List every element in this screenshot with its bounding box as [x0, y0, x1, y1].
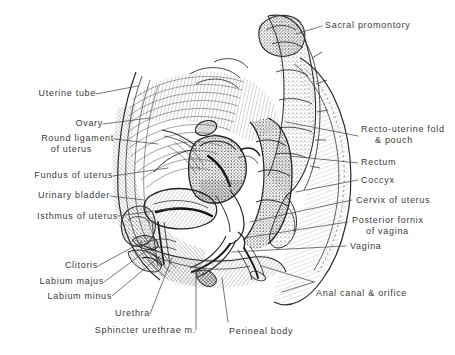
label-sphincter-urethrae: Sphincter urethrae m.: [0, 325, 196, 336]
label-fundus-of-uterus: Fundus of uterus: [0, 170, 113, 181]
pubic-bone-shape: [121, 206, 155, 246]
label-labium-majus: Labium majus: [0, 276, 104, 287]
label-isthmus-of-uterus: Isthmus of uterus: [0, 211, 118, 222]
label-round-ligament-of-uterus: Round ligament of uterus: [0, 133, 114, 155]
label-sacral-promontory: Sacral promontory: [325, 20, 410, 31]
label-urethra: Urethra: [0, 308, 150, 319]
label-coccyx: Coccyx: [361, 175, 395, 186]
label-clitoris: Clitoris: [0, 260, 98, 271]
label-anal-canal-and-orifice: Anal canal & orifice: [316, 288, 407, 299]
label-posterior-fornix-of-vagina: Posterior fornix of vagina: [352, 215, 424, 237]
pubic-symphysis: [121, 206, 155, 246]
label-urinary-bladder: Urinary bladder: [0, 190, 110, 201]
label-ovary: Ovary: [0, 118, 103, 129]
label-labium-minus: Labium minus: [0, 291, 112, 302]
label-uterine-tube: Uterine tube: [0, 88, 96, 99]
label-cervix-of-uterus: Cervix of uterus: [356, 195, 430, 206]
label-perineal-body: Perineal body: [229, 326, 293, 337]
label-vagina: Vagina: [350, 241, 382, 252]
label-rectum: Rectum: [361, 157, 396, 168]
sacral-promontory-bone: [259, 15, 305, 56]
label-recto-uterine-fold-and-pouch: Recto-uterine fold & pouch: [361, 124, 445, 146]
